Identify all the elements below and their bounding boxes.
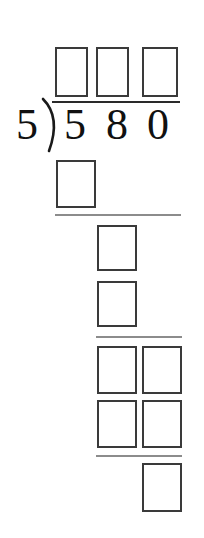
- first-bring-down-box[interactable]: [97, 281, 137, 327]
- quotient-box-1[interactable]: [55, 47, 88, 97]
- long-division-worksheet: 5 5 8 0: [0, 0, 204, 538]
- second-partial-product-box-1[interactable]: [97, 346, 137, 394]
- second-partial-product-box-2[interactable]: [142, 346, 182, 394]
- subtraction-rule-1: [55, 214, 181, 216]
- first-remainder-box[interactable]: [97, 225, 137, 271]
- dividend-digit-ones: 0: [141, 103, 175, 147]
- division-bracket-icon: [40, 97, 60, 153]
- final-remainder-box[interactable]: [142, 463, 182, 512]
- dividend-digit-hundreds: 5: [58, 103, 92, 147]
- subtraction-rule-3: [96, 455, 182, 457]
- second-remainder-box-2[interactable]: [142, 400, 182, 448]
- first-partial-product-box[interactable]: [56, 160, 96, 208]
- second-remainder-box-1[interactable]: [97, 400, 137, 448]
- dividend-digit-tens: 8: [100, 103, 134, 147]
- quotient-box-2[interactable]: [96, 47, 129, 97]
- quotient-box-3[interactable]: [142, 47, 178, 97]
- divisor-digit: 5: [12, 103, 42, 147]
- subtraction-rule-2: [96, 336, 182, 338]
